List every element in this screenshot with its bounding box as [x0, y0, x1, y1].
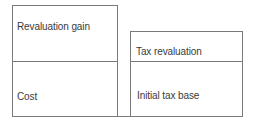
- baseline: [12, 116, 243, 117]
- right-block-divider: [130, 61, 243, 62]
- initial-tax-base-label: Initial tax base: [137, 90, 199, 101]
- cost-label: Cost: [17, 91, 37, 102]
- tax-revaluation-label: Tax revaluation: [136, 46, 202, 57]
- left-block-divider: [12, 61, 118, 62]
- right-block: [130, 31, 243, 117]
- revaluation-gain-label: Revaluation gain: [17, 21, 90, 32]
